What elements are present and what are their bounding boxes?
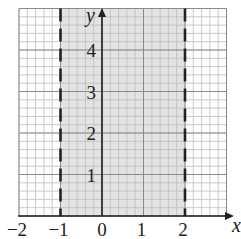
y-tick-label: 2 [87, 123, 97, 144]
x-tick-label: 0 [97, 219, 107, 239]
y-tick-label: 3 [87, 82, 97, 103]
shaded-region [61, 9, 186, 217]
shaded-strip [61, 9, 186, 217]
x-tick-label: −1 [48, 219, 68, 239]
y-axis-label: y [84, 4, 95, 27]
x-axis-label: x [231, 214, 241, 236]
x-tick-label: 2 [178, 219, 188, 239]
x-tick-label: −2 [7, 219, 27, 239]
x-tick-label: 1 [137, 219, 147, 239]
y-tick-label: 4 [87, 40, 97, 61]
graph: −2−1012 1234 x y [0, 0, 241, 239]
y-tick-label: 1 [87, 165, 97, 186]
x-tick-labels: −2−1012 [7, 219, 188, 239]
